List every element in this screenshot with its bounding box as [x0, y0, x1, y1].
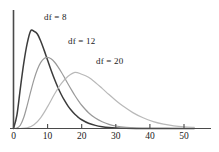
chi-square-distribution-chart: 01020304050 df = 8 df = 12 df = 20 — [0, 0, 219, 152]
curve-df20 — [14, 72, 195, 128]
x-tick-label: 40 — [145, 131, 155, 141]
curve-df8 — [14, 30, 195, 128]
plot-area — [0, 0, 219, 152]
x-tick-label: 30 — [111, 131, 121, 141]
x-tick-label: 20 — [77, 131, 87, 141]
curve-annotation-df12: df = 12 — [68, 36, 95, 46]
x-tick-label: 0 — [11, 131, 16, 141]
x-tick-label: 10 — [43, 131, 53, 141]
curve-annotation-df8: df = 8 — [44, 12, 67, 22]
x-tick-label: 50 — [179, 131, 189, 141]
curve-annotation-df20: df = 20 — [96, 56, 123, 66]
curves-group — [14, 30, 195, 128]
axes-group — [10, 10, 211, 129]
